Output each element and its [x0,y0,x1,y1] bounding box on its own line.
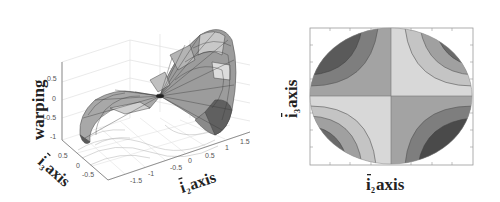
svg-text:axis: axis [42,159,73,189]
svg-text:-1: -1 [50,133,56,140]
contour-x-axis-title: i 2 axis [366,174,405,195]
contour-plot: i 3 axis i 2 axis [250,0,500,202]
contour-y-axis-title: i 3 axis [281,79,302,118]
svg-text:1: 1 [225,144,229,151]
svg-text:0: 0 [52,95,56,102]
svg-text:axis: axis [376,175,405,194]
svg-text:axis: axis [282,79,301,108]
svg-text:0.5: 0.5 [47,75,57,82]
svg-text:0: 0 [76,162,80,169]
svg-text:0: 0 [188,157,192,164]
surface-plot: 0.5 0 -0.5 -1 0.5 0 -0.5 -1.5 -1 -0.5 0 … [0,0,250,202]
svg-text:-0.5: -0.5 [82,171,94,178]
svg-text:2: 2 [371,186,375,195]
surface-plot-panel: 0.5 0 -0.5 -1 0.5 0 -0.5 -1.5 -1 -0.5 0 … [0,0,250,202]
z-axis-title: warping [29,79,48,140]
svg-text:-0.5: -0.5 [170,164,182,171]
svg-text:3: 3 [293,109,302,113]
svg-text:-1.5: -1.5 [130,177,142,184]
contour-plot-panel: i 3 axis i 2 axis [250,0,500,202]
svg-text:-1: -1 [148,170,154,177]
y-axis-title: i 3 axis [34,152,75,191]
svg-text:0.5: 0.5 [205,152,215,159]
svg-text:axis: axis [187,168,218,192]
svg-text:1.5: 1.5 [240,138,250,145]
x-axis-title: i 2 axis [177,167,218,197]
svg-text:0.5: 0.5 [58,152,68,159]
